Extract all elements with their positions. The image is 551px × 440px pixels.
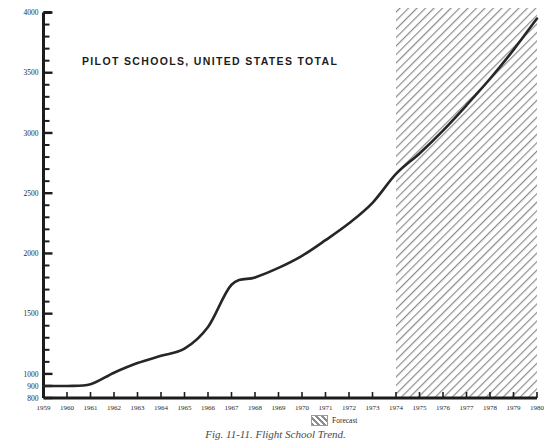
svg-text:1972: 1972 [342,404,357,412]
svg-text:4000: 4000 [24,8,39,17]
svg-text:1966: 1966 [201,404,216,412]
svg-text:1967: 1967 [225,404,240,412]
svg-text:1000: 1000 [24,370,39,379]
x-axis-tick-labels: 1959196019611962196319641965196619671968… [37,404,545,412]
svg-text:3500: 3500 [24,68,39,77]
svg-text:1962: 1962 [107,404,122,412]
figure-flight-school-trend: 8009001000150020002500300035004000 19591… [0,0,551,440]
svg-text:900: 900 [27,382,39,391]
svg-text:1976: 1976 [436,404,451,412]
svg-text:1980: 1980 [530,404,545,412]
svg-text:2500: 2500 [24,189,39,198]
svg-text:1500: 1500 [24,309,39,318]
svg-text:1968: 1968 [248,404,263,412]
y-axis-tick-labels: 8009001000150020002500300035004000 [24,8,39,403]
svg-text:1974: 1974 [389,404,404,412]
forecast-hatch-swatch [311,415,328,426]
svg-text:1971: 1971 [319,404,334,412]
forecast-region [396,8,537,398]
svg-text:3000: 3000 [24,129,39,138]
svg-text:1964: 1964 [154,404,169,412]
svg-text:1961: 1961 [84,404,99,412]
svg-text:1963: 1963 [131,404,146,412]
chart-title: PILOT SCHOOLS, UNITED STATES TOTAL [82,55,338,67]
svg-text:1960: 1960 [60,404,75,412]
svg-text:1965: 1965 [178,404,193,412]
svg-text:2000: 2000 [24,249,39,258]
svg-text:800: 800 [27,394,39,403]
svg-text:1959: 1959 [37,404,52,412]
svg-text:1979: 1979 [507,404,522,412]
svg-text:1969: 1969 [272,404,287,412]
figure-caption: Fig. 11-11. Flight School Trend. [0,428,551,440]
svg-text:1975: 1975 [413,404,428,412]
legend-label-forecast: Forecast [332,416,357,425]
svg-text:1970: 1970 [295,404,310,412]
svg-text:1978: 1978 [483,404,498,412]
svg-text:1977: 1977 [460,404,475,412]
legend-forecast: Forecast [311,415,357,426]
svg-text:1973: 1973 [366,404,381,412]
